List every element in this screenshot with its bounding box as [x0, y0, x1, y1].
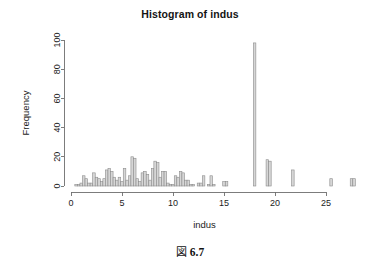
histogram-bar [136, 179, 139, 186]
histogram-bar [146, 174, 149, 186]
histogram-bar [292, 170, 295, 186]
histogram-bar [169, 185, 172, 186]
histogram-bar [210, 176, 213, 186]
histogram-bar [353, 179, 356, 186]
histogram-bar [174, 176, 177, 186]
histogram-bar [269, 161, 272, 186]
histogram-bar [179, 171, 182, 186]
histogram-bar [190, 185, 193, 186]
histogram-bar [126, 180, 129, 186]
histogram-bar [162, 171, 165, 186]
figure-caption-number: 6.7 [190, 246, 204, 258]
histogram-bar [80, 183, 83, 186]
histogram-bar [108, 168, 111, 186]
histogram-bar [197, 183, 200, 186]
histogram-bar [192, 185, 195, 186]
histogram-bar [207, 185, 210, 186]
histogram-bar [98, 179, 101, 186]
y-axis-tick-label: 80 [52, 64, 62, 74]
histogram-bar [141, 173, 144, 186]
x-axis-tick-label: 15 [219, 198, 229, 208]
histogram-bar [266, 160, 269, 186]
x-axis-title: indus [193, 219, 216, 230]
histogram-bar [88, 183, 91, 186]
histogram-bars [75, 43, 355, 186]
histogram-bar [100, 182, 103, 186]
y-axis-tick-label: 0 [52, 183, 62, 188]
histogram-bar [184, 180, 187, 186]
histogram-bar [113, 177, 116, 186]
x-axis-tick-label: 0 [68, 198, 73, 208]
histogram-bar [200, 183, 203, 186]
figure-container: Histogram of indus 020406080100051015202… [0, 0, 380, 269]
histogram-bar [118, 177, 121, 186]
x-axis-tick-label: 5 [119, 198, 124, 208]
x-axis-tick-label: 20 [270, 198, 280, 208]
histogram-bar [156, 163, 159, 186]
histogram-bar [164, 171, 167, 186]
histogram-bar [90, 183, 93, 186]
histogram-bar [133, 158, 136, 186]
x-axis-tick-label: 25 [321, 198, 331, 208]
histogram-bar [177, 177, 180, 186]
histogram-bar [103, 179, 106, 186]
histogram-bar [121, 182, 124, 186]
histogram-bar [172, 185, 175, 186]
histogram-bar [105, 170, 108, 186]
histogram-bar [154, 161, 157, 186]
histogram-bar [159, 177, 162, 186]
histogram-bar [77, 185, 80, 186]
histogram-bar [330, 179, 333, 186]
histogram-bar [202, 176, 205, 186]
histogram-bar [223, 182, 226, 186]
histogram-bar [187, 180, 190, 186]
histogram-chart: 0204060801000510152025indusFrequency [0, 0, 380, 240]
histogram-bar [123, 168, 126, 186]
y-axis-tick-label: 100 [52, 32, 62, 47]
histogram-bar [128, 176, 131, 186]
histogram-bar [151, 168, 154, 186]
chart-axes [61, 40, 327, 196]
histogram-bar [75, 185, 78, 186]
histogram-bar [167, 183, 170, 186]
histogram-bar [144, 171, 147, 186]
histogram-bar [82, 176, 85, 186]
histogram-bar [95, 177, 98, 186]
histogram-bar [139, 182, 142, 186]
y-axis-tick-label: 40 [52, 123, 62, 133]
histogram-bar [85, 179, 88, 186]
y-axis-title: Frequency [20, 90, 31, 135]
x-axis-tick-label: 10 [168, 198, 178, 208]
histogram-bar [149, 180, 152, 186]
figure-caption-mark: 図 [176, 246, 187, 259]
histogram-bar [213, 185, 216, 186]
figure-caption: 図 6.7 [0, 243, 380, 259]
histogram-bar [116, 180, 119, 186]
y-axis-tick-label: 60 [52, 93, 62, 103]
histogram-bar [93, 173, 96, 186]
histogram-bar [131, 157, 134, 186]
histogram-bar [350, 179, 353, 186]
histogram-bar [111, 171, 114, 186]
chart-axis-labels: 0204060801000510152025indusFrequency [20, 32, 331, 230]
histogram-bar [225, 182, 228, 186]
histogram-bar [253, 43, 256, 186]
histogram-bar [182, 173, 185, 186]
y-axis-tick-label: 20 [52, 152, 62, 162]
